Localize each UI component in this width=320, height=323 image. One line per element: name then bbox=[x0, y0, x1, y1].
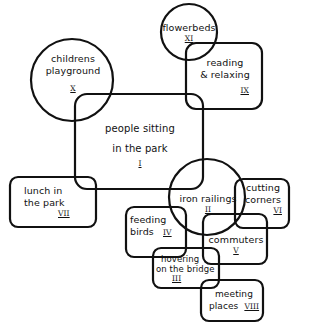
node-numeral: IV bbox=[163, 228, 172, 237]
node-numeral: X bbox=[40, 84, 106, 94]
node-childrens-playground: childrens playground X bbox=[40, 53, 106, 94]
node-numeral: VI bbox=[238, 206, 288, 216]
node-label-line: flowerbeds bbox=[162, 22, 215, 33]
node-label-line: playground bbox=[46, 65, 101, 76]
node-label-line: places bbox=[209, 301, 239, 311]
node-label-line: & relaxing bbox=[200, 69, 250, 80]
node-label-line: corners bbox=[245, 194, 281, 205]
node-label-line: childrens bbox=[51, 53, 95, 64]
node-numeral: I bbox=[90, 159, 190, 169]
node-feeding-birds: feeding birds IV bbox=[130, 214, 186, 238]
node-label-line: birds bbox=[130, 226, 154, 237]
node-lunch-in-the-park: lunch in the park VII bbox=[24, 185, 90, 219]
node-label-line: people sitting bbox=[105, 123, 175, 134]
node-numeral: III bbox=[156, 274, 220, 284]
node-commuters: commuters V bbox=[205, 234, 267, 256]
node-label-line: the park bbox=[24, 197, 65, 208]
node-hovering-bridge: hovering on the bridge III bbox=[156, 254, 220, 284]
node-iron-railings: iron railings II bbox=[172, 193, 244, 215]
node-numeral: VIII bbox=[244, 302, 259, 311]
node-cutting-corners: cutting corners VI bbox=[238, 182, 288, 216]
node-reading-relaxing: reading & relaxing IX bbox=[191, 57, 259, 96]
node-people-sitting: people sitting in the park I bbox=[90, 119, 190, 169]
node-label-line: on the bridge bbox=[156, 264, 215, 274]
node-numeral: IX bbox=[191, 86, 259, 96]
node-label-line: hovering bbox=[156, 254, 199, 264]
node-label-line: iron railings bbox=[179, 193, 236, 204]
node-label-line: in the park bbox=[112, 143, 167, 154]
node-label-line: meeting bbox=[215, 289, 253, 299]
node-meeting-places: meeting places VIII bbox=[206, 288, 262, 312]
node-label-line: cutting bbox=[246, 182, 280, 193]
node-label-line: commuters bbox=[209, 234, 264, 245]
node-label-line: reading bbox=[207, 57, 244, 68]
node-numeral: VII bbox=[24, 209, 90, 219]
node-numeral: XI bbox=[160, 34, 218, 44]
node-flowerbeds: flowerbeds XI bbox=[160, 22, 218, 44]
node-label-line: feeding bbox=[130, 214, 166, 225]
node-label-line: lunch in bbox=[24, 185, 62, 196]
